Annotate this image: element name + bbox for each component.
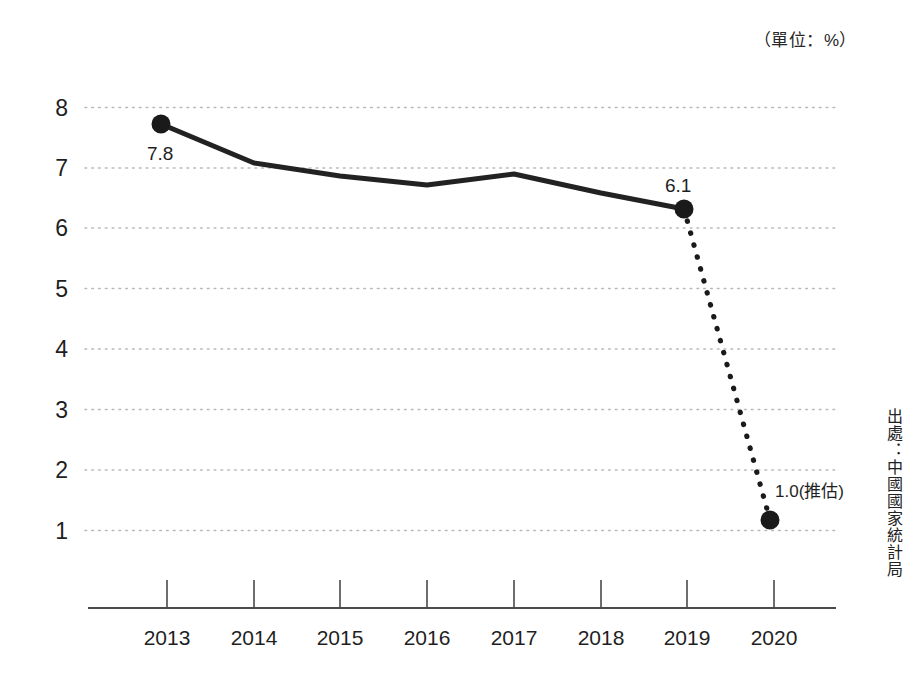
x-tick-label-2015: 2015 (317, 627, 364, 648)
data-point-2013 (152, 115, 171, 134)
x-axis-ticks (167, 580, 774, 608)
y-tick-label-1: 1 (34, 519, 68, 542)
y-tick-label-4: 4 (34, 338, 68, 361)
data-point-2020 (761, 511, 780, 530)
x-tick-label-2020: 2020 (751, 627, 798, 648)
data-label-2013: 7.8 (147, 144, 173, 163)
x-tick-label-2019: 2019 (664, 627, 711, 648)
x-tick-label-2016: 2016 (404, 627, 451, 648)
data-point-2019 (675, 200, 694, 219)
plot-area: 8 7 6 5 4 3 2 1 2013 2014 2015 2016 2017… (0, 0, 917, 693)
x-tick-label-2017: 2017 (491, 627, 538, 648)
chart-root: （單位：%） (0, 0, 917, 693)
y-tick-label-2: 2 (34, 459, 68, 482)
x-tick-label-2013: 2013 (144, 627, 191, 648)
gridlines (85, 108, 838, 531)
x-tick-label-2014: 2014 (231, 627, 278, 648)
x-tick-label-2018: 2018 (578, 627, 625, 648)
y-tick-label-7: 7 (34, 157, 68, 180)
data-label-2019: 6.1 (665, 176, 691, 195)
series-actual-line (161, 124, 684, 209)
source-note: 出處：中國國家統計局 (884, 408, 901, 608)
y-tick-label-3: 3 (34, 398, 68, 421)
chart-canvas (0, 0, 917, 693)
y-tick-label-5: 5 (34, 277, 68, 300)
series-projected-line (684, 209, 770, 520)
y-tick-label-6: 6 (34, 217, 68, 240)
data-label-2020: 1.0(推估) (775, 483, 844, 500)
y-tick-label-8: 8 (34, 96, 68, 119)
